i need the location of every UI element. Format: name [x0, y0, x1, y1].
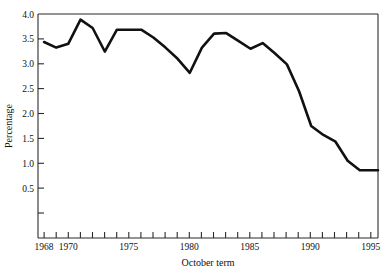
y-tick-label: 1.0: [22, 159, 34, 169]
y-tick-label: 4.0: [22, 10, 34, 20]
x-tick-label: 1995: [361, 242, 380, 252]
y-tick-label: 0.5: [22, 184, 34, 194]
x-tick-label: 1985: [240, 242, 259, 252]
chart-figure: 4.0 3.5 3.0 2.5 2.0 1.5 1.0 0.5 Percenta…: [0, 0, 390, 280]
x-tick-label: 1990: [301, 242, 320, 252]
data-series-line: [44, 20, 378, 171]
line-chart: 4.0 3.5 3.0 2.5 2.0 1.5 1.0 0.5 Percenta…: [0, 0, 390, 280]
plot-frame: [38, 14, 378, 238]
x-axis-ticks: [44, 232, 371, 238]
x-axis-tick-labels: 1968 1970 1975 1980 1985 1990 1995: [35, 242, 381, 252]
x-tick-label: 1980: [180, 242, 199, 252]
x-axis-title: October term: [181, 257, 234, 268]
y-tick-label: 2.0: [22, 109, 34, 119]
y-axis-ticks: [38, 39, 44, 213]
y-tick-label: 2.5: [22, 84, 34, 94]
x-tick-label: 1975: [119, 242, 138, 252]
y-tick-label: 3.5: [22, 34, 34, 44]
x-tick-label: 1970: [59, 242, 78, 252]
y-tick-label: 3.0: [22, 59, 34, 69]
y-axis-title: Percentage: [3, 104, 14, 148]
y-axis-tick-labels: 4.0 3.5 3.0 2.5 2.0 1.5 1.0 0.5: [22, 10, 34, 194]
x-tick-label: 1968: [35, 242, 54, 252]
y-tick-label: 1.5: [22, 134, 34, 144]
